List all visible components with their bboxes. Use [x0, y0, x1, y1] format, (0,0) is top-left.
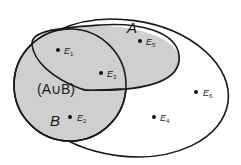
- point-dot: [99, 71, 103, 75]
- point-dot: [194, 90, 198, 94]
- point-dot: [68, 115, 72, 119]
- set-a-label: A: [126, 19, 137, 36]
- set-b-label: B: [50, 112, 60, 129]
- union-label: (A∪B): [37, 81, 75, 97]
- point-dot: [152, 115, 156, 119]
- point-dot: [138, 39, 142, 43]
- point-dot: [56, 48, 60, 52]
- venn-diagram: A B (A∪B) E1 E5 E3 E6 E2 E4: [0, 0, 241, 165]
